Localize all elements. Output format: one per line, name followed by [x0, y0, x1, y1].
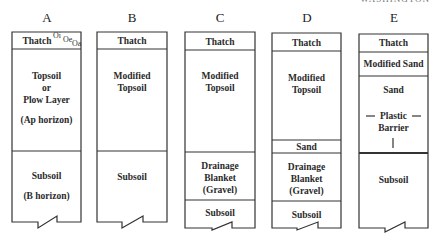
horizon-oe: Oe: [63, 35, 72, 44]
layer-drainage-blanket-c: Drainage Blanket (Gravel): [185, 160, 255, 196]
layer-modified-topsoil-c: Modified Topsoil: [185, 70, 255, 94]
layer-subsoil-d: Subsoil: [272, 209, 341, 221]
layer-sand-e: Sand: [359, 84, 428, 96]
layer-modified-topsoil-d: Modified Topsoil: [272, 72, 341, 96]
layer-topsoil-a: Topsoil or Plow Layer (Ap horizon): [12, 70, 81, 126]
layer-thatch-d: Thatch: [272, 37, 341, 49]
profile-b-outline: [97, 32, 167, 228]
layer-sand-d: Sand: [272, 141, 341, 153]
layer-thatch-e: Thatch: [359, 37, 428, 49]
layer-thatch-b: Thatch: [97, 35, 167, 47]
profile-c-outline: [185, 32, 255, 230]
layer-modified-sand-e: Modified Sand: [359, 58, 428, 70]
layer-subsoil-c: Subsoil: [185, 207, 255, 219]
layer-subsoil-b: Subsoil: [97, 171, 167, 183]
horizon-oa: Oa: [72, 39, 81, 48]
plastic-barrier-label: Plastic Barrier: [359, 110, 428, 134]
profile-d-outline: [272, 33, 341, 230]
layer-modified-topsoil-b: Modified Topsoil: [97, 70, 167, 94]
layer-drainage-blanket-d: Drainage Blanket (Gravel): [272, 161, 341, 197]
layer-subsoil-e: Subsoil: [359, 174, 428, 186]
horizon-oi: Oi: [53, 31, 61, 40]
layer-subsoil-a: Subsoil (B horizon): [12, 170, 81, 202]
layer-thatch-c: Thatch: [185, 36, 255, 48]
